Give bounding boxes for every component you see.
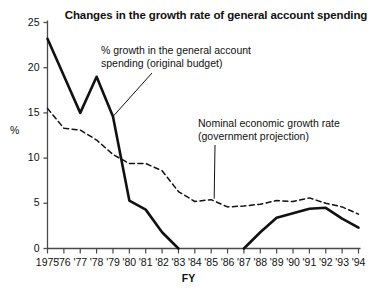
y-tick-label: 0 — [16, 242, 40, 254]
plot-area — [0, 0, 377, 292]
leader-line-2 — [214, 145, 215, 199]
series-line-1 — [244, 208, 359, 249]
axes — [48, 21, 361, 249]
y-tick-label: 25 — [16, 16, 40, 28]
y-tick-label: 10 — [16, 151, 40, 163]
x-tick-label: '94 — [349, 256, 369, 268]
annotation-leader-lines — [113, 73, 215, 199]
leader-line-1 — [113, 73, 152, 117]
y-tick-label: 5 — [16, 196, 40, 208]
axis-ticks — [44, 23, 359, 254]
series-line-1 — [48, 39, 179, 249]
y-tick-label: 20 — [16, 61, 40, 73]
chart-figure: Changes in the growth rate of general ac… — [0, 0, 377, 292]
y-tick-label: 15 — [16, 106, 40, 118]
series-line-2 — [48, 108, 359, 214]
data-series — [48, 39, 359, 249]
